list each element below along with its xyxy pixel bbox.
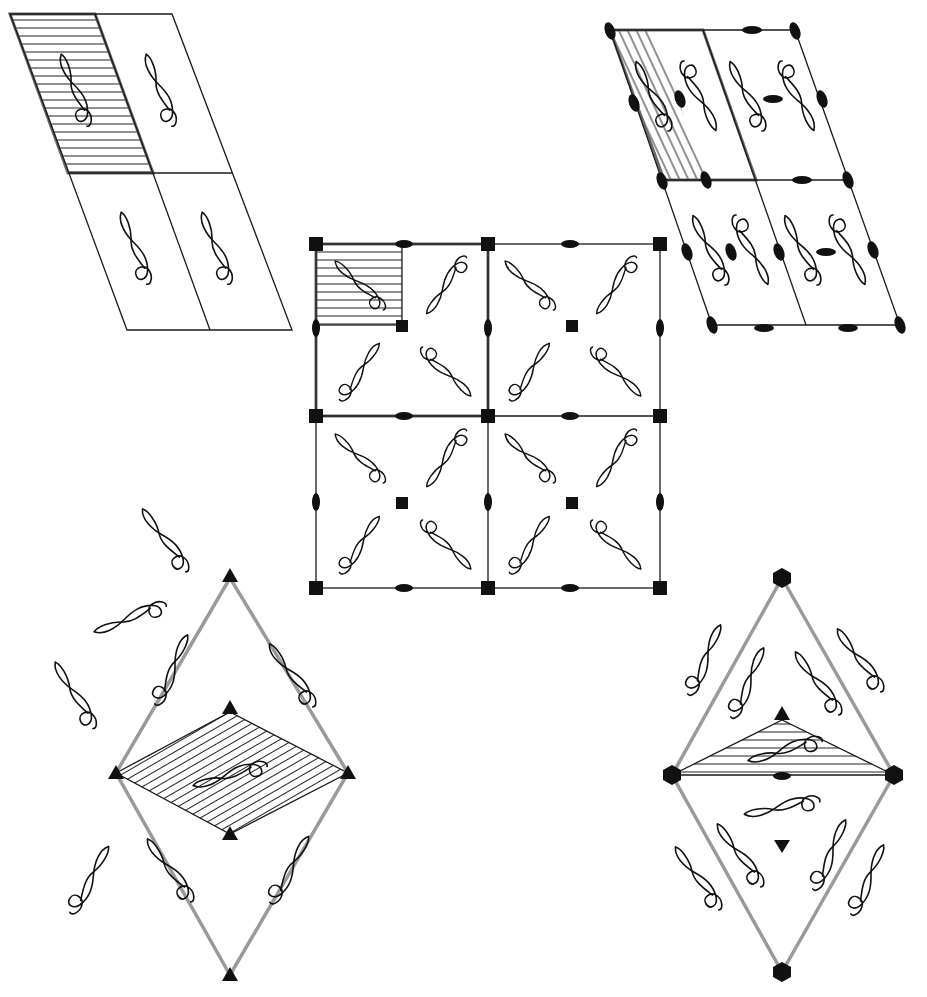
- twofold-axis-icon: [773, 772, 791, 780]
- asymmetric-unit-hatch: [116, 712, 348, 834]
- asymmetric-unit-hatch: [610, 30, 707, 180]
- asymmetric-unit-hatch: [316, 244, 402, 325]
- motif-icon: [53, 503, 319, 916]
- panel-p1: [10, 14, 292, 330]
- panel-p6: [663, 568, 903, 982]
- symmetry-diagram: [0, 0, 927, 997]
- panel-p3: [53, 503, 356, 981]
- panel-p2: [602, 21, 908, 335]
- panel-p4: [309, 237, 667, 595]
